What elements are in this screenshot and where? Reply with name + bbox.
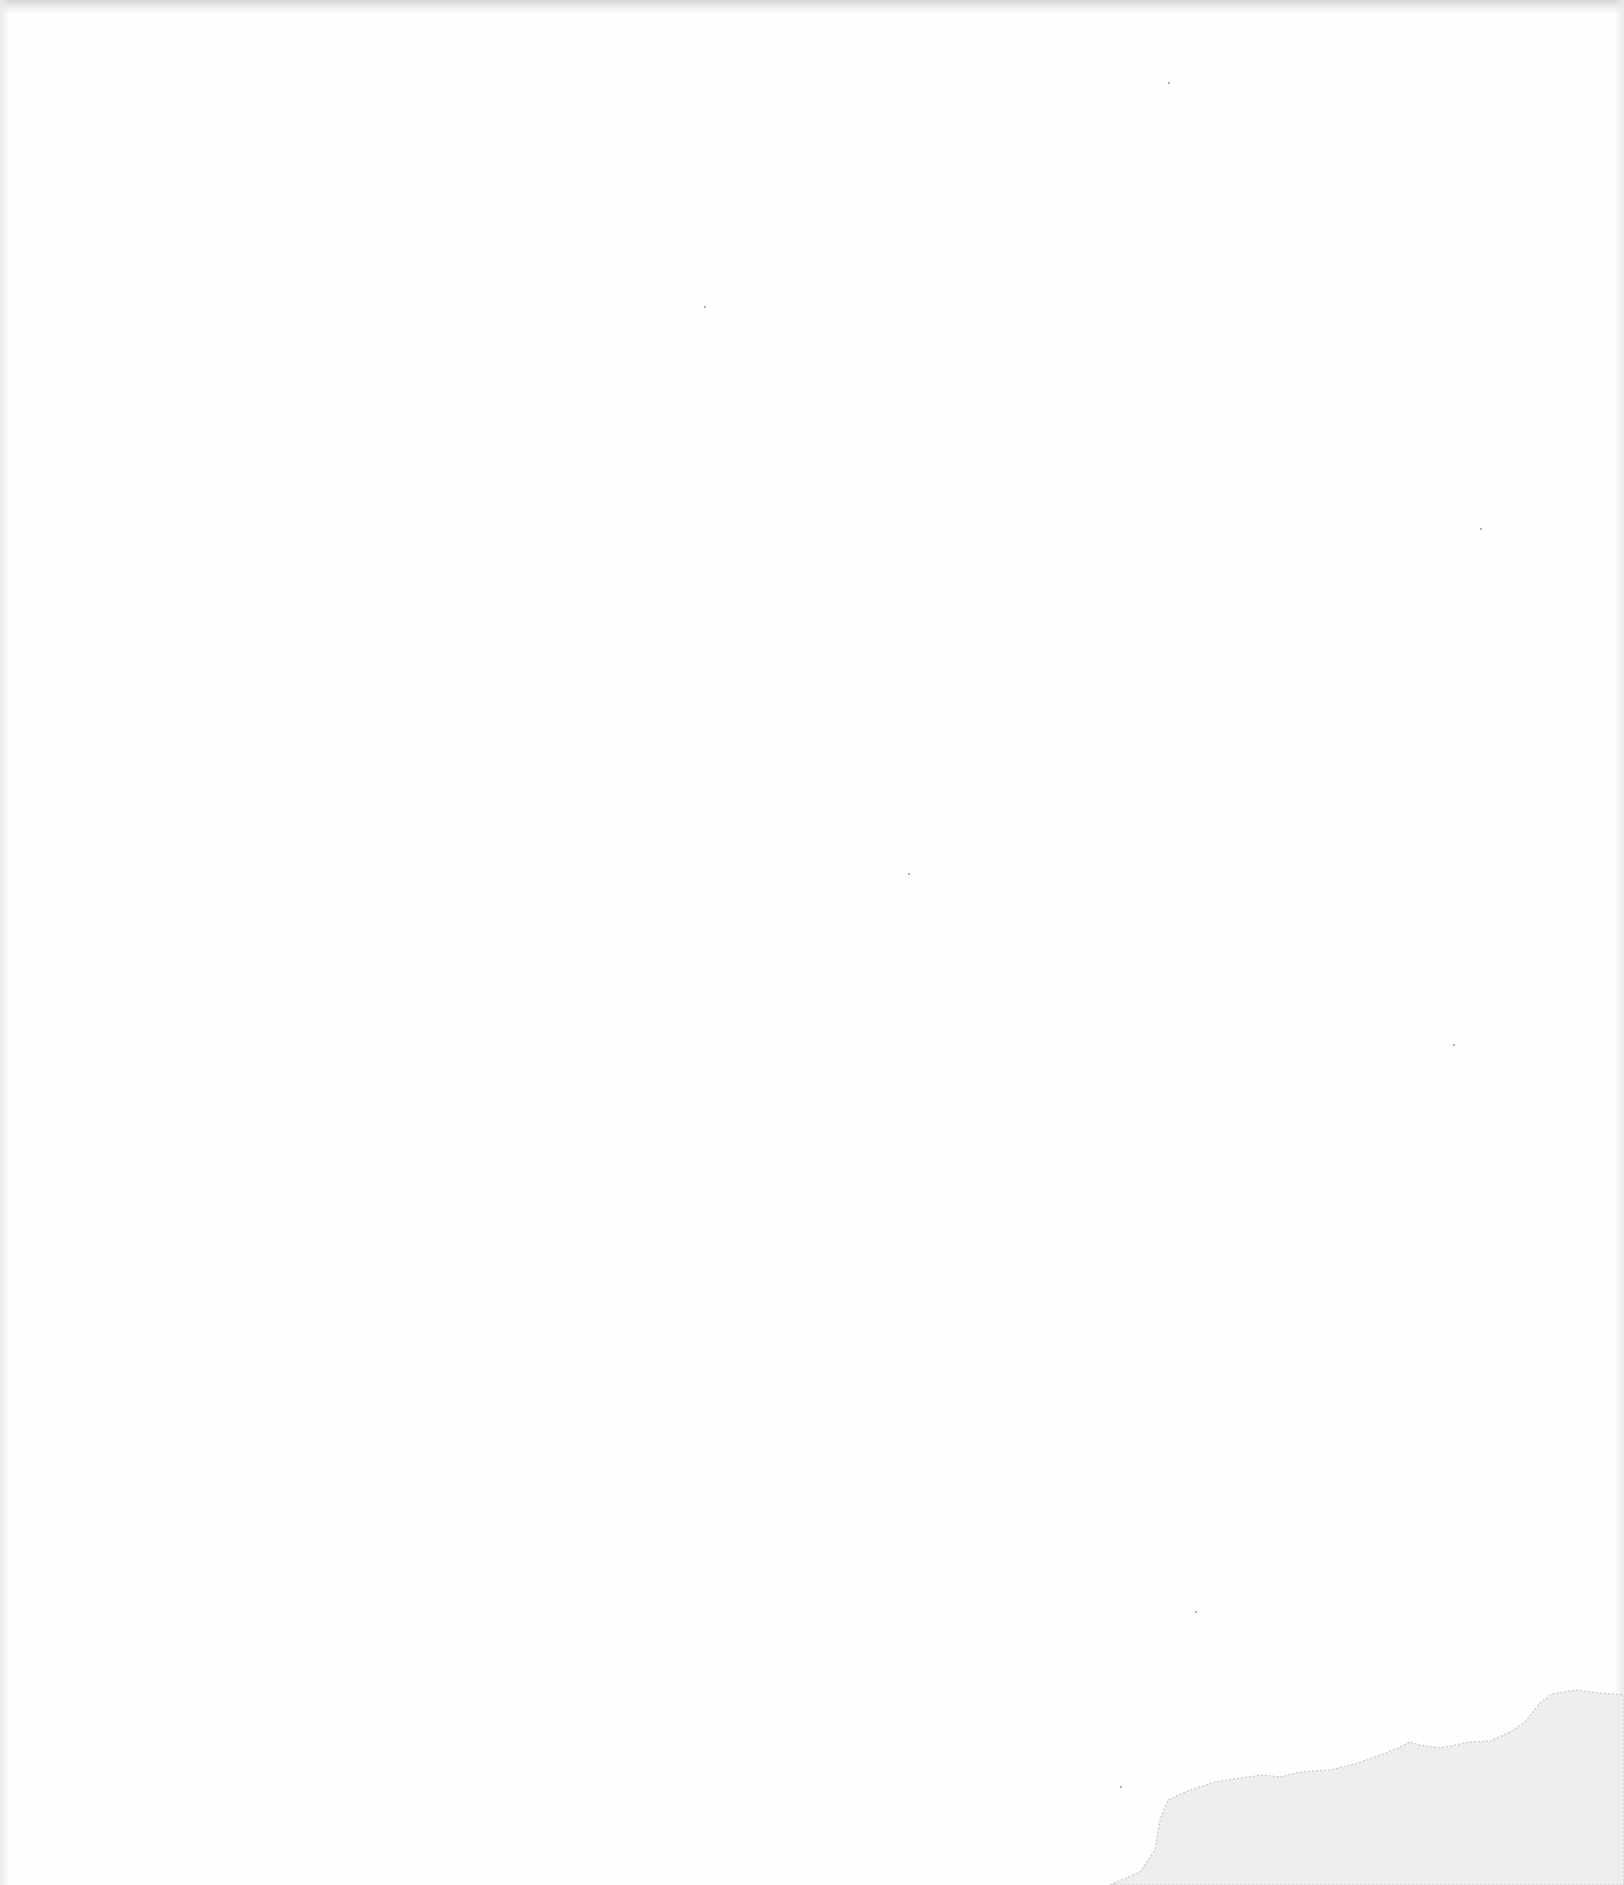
water-stain-corner — [0, 0, 1624, 1885]
blank-page — [0, 0, 1624, 1885]
